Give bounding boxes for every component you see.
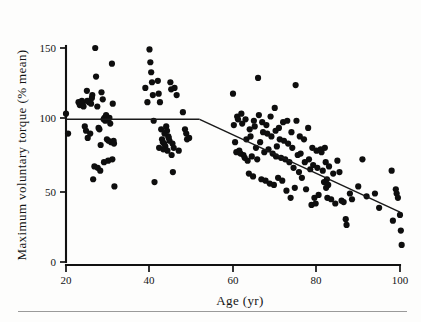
axis-group (66, 46, 400, 265)
data-point (166, 135, 172, 141)
data-point (288, 195, 294, 201)
data-point (395, 195, 401, 201)
data-point (306, 156, 312, 162)
data-point (167, 79, 173, 85)
data-point (98, 142, 104, 148)
x-tick-label-40: 40 (144, 274, 156, 286)
data-point (107, 121, 113, 127)
data-point (142, 85, 148, 91)
data-point (230, 91, 236, 97)
data-point (268, 133, 274, 139)
data-point (63, 111, 69, 117)
data-point (242, 116, 248, 122)
data-point (174, 92, 180, 98)
data-point (284, 118, 290, 124)
y-tick-label-150: 150 (40, 42, 57, 54)
data-point (84, 88, 90, 94)
data-point (276, 125, 282, 131)
data-point (288, 129, 294, 135)
data-point (289, 145, 295, 151)
x-tick-label-80: 80 (311, 274, 323, 286)
data-point (299, 175, 305, 181)
data-point (176, 148, 182, 154)
data-point (332, 200, 338, 206)
data-point (151, 179, 157, 185)
data-point (322, 145, 328, 151)
data-point (247, 133, 253, 139)
data-point (298, 150, 304, 156)
data-point (267, 113, 273, 119)
data-point (155, 78, 161, 84)
data-point (283, 188, 289, 194)
data-point (272, 105, 278, 111)
data-point (303, 186, 309, 192)
data-point (249, 153, 255, 159)
data-point (271, 182, 277, 188)
data-point (250, 173, 256, 179)
data-point (109, 156, 115, 162)
data-point (293, 82, 299, 88)
data-point (148, 69, 154, 75)
data-point (87, 131, 93, 137)
data-point (390, 218, 396, 224)
data-point (398, 228, 404, 234)
scatter-plot: 150 100 50 0 20 40 60 80 100 Age (yr) Ma… (0, 0, 421, 322)
data-point (98, 89, 104, 95)
fitted-line-decline-segment (200, 119, 400, 212)
data-point (290, 165, 296, 171)
data-point (149, 79, 155, 85)
footer-rule (18, 311, 407, 312)
y-tick-label-100: 100 (40, 112, 57, 124)
y-axis-title: Maximum voluntary torque (% mean) (14, 49, 29, 260)
data-point (330, 170, 336, 176)
data-point (232, 139, 238, 145)
x-tick-label-20: 20 (61, 274, 73, 286)
data-point (320, 168, 326, 174)
data-point (231, 122, 237, 128)
y-tick-label-0: 0 (51, 256, 57, 268)
data-point (397, 212, 403, 218)
data-point (96, 126, 102, 132)
figure-panel: 150 100 50 0 20 40 60 80 100 Age (yr) Ma… (0, 0, 421, 322)
data-point (305, 125, 311, 131)
data-point (144, 99, 150, 105)
x-tick-label-60: 60 (228, 274, 240, 286)
data-point (314, 165, 320, 171)
data-point (84, 98, 90, 104)
data-point (336, 169, 342, 175)
data-point (315, 192, 321, 198)
data-point (111, 140, 117, 146)
data-point (238, 111, 244, 117)
data-point (109, 61, 115, 67)
data-point (279, 178, 285, 184)
data-point (90, 176, 96, 182)
data-point (343, 216, 349, 222)
data-point (372, 190, 378, 196)
data-point (389, 168, 395, 174)
data-point (256, 112, 262, 118)
data-point (171, 85, 177, 91)
data-point (251, 118, 257, 124)
data-point (157, 99, 163, 105)
data-point (293, 118, 299, 124)
data-point (399, 242, 405, 248)
data-point (254, 156, 260, 162)
x-tick-label-100: 100 (392, 274, 409, 286)
data-point (301, 136, 307, 142)
data-point (170, 169, 176, 175)
data-point (263, 122, 269, 128)
data-point (296, 169, 302, 175)
data-point (347, 190, 353, 196)
data-point (110, 101, 116, 107)
data-point (65, 131, 71, 137)
data-point (355, 183, 361, 189)
data-point (92, 45, 98, 51)
data-point (80, 103, 86, 109)
data-point (334, 158, 340, 164)
data-point (323, 185, 329, 191)
data-point (341, 199, 347, 205)
data-point (313, 200, 319, 206)
data-point (180, 109, 186, 115)
data-point (94, 103, 100, 109)
data-point (146, 46, 152, 52)
